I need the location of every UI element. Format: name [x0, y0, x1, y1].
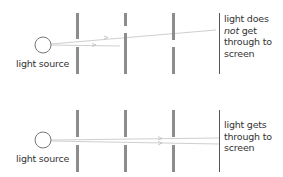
light-rays: [51, 30, 216, 46]
label-line: light gets: [224, 119, 272, 131]
barrier-1: [76, 13, 79, 74]
label-line: through to: [224, 36, 272, 48]
top-panel-misaligned: light source light does not get through …: [0, 0, 283, 88]
barrier-3: [172, 13, 175, 74]
label-line: screen: [224, 48, 272, 60]
label-line: not get: [224, 25, 272, 37]
label-line: through to: [224, 131, 272, 143]
light-rays: [51, 138, 219, 144]
ray-arrowheads: [158, 137, 162, 146]
light-source-icon: [35, 132, 51, 148]
ray-arrowheads: [92, 36, 108, 47]
light-source-icon: [35, 37, 51, 53]
light-source-label: light source: [16, 58, 69, 69]
light-source-label: light source: [16, 153, 69, 164]
label-text: get: [239, 25, 257, 36]
barrier-3: [172, 110, 175, 172]
barrier-2: [124, 110, 127, 172]
barrier-2: [124, 13, 127, 74]
bottom-panel-aligned: light source light gets through to scree…: [0, 88, 283, 177]
label-line: screen: [224, 142, 272, 154]
screen-result-label: light gets through to screen: [224, 119, 272, 154]
emphasis-not: not: [224, 25, 239, 36]
screen-result-label: light does not get through to screen: [224, 13, 272, 59]
label-line: light does: [224, 13, 272, 25]
